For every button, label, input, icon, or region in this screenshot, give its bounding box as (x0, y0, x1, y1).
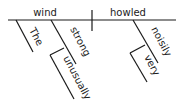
sentence-diagram: wind howled The strong unusually noisily… (0, 0, 186, 104)
modifier-word-very: very (142, 53, 162, 78)
modifier-word-strong: strong (68, 25, 93, 58)
predicate-word: howled (110, 7, 146, 18)
modifier-connector-very (130, 45, 145, 53)
subject-word: wind (33, 7, 57, 18)
modifier-word-unusually: unusually (61, 54, 93, 102)
modifier-word-the: The (27, 25, 46, 47)
modifier-connector-unusually (50, 48, 64, 55)
